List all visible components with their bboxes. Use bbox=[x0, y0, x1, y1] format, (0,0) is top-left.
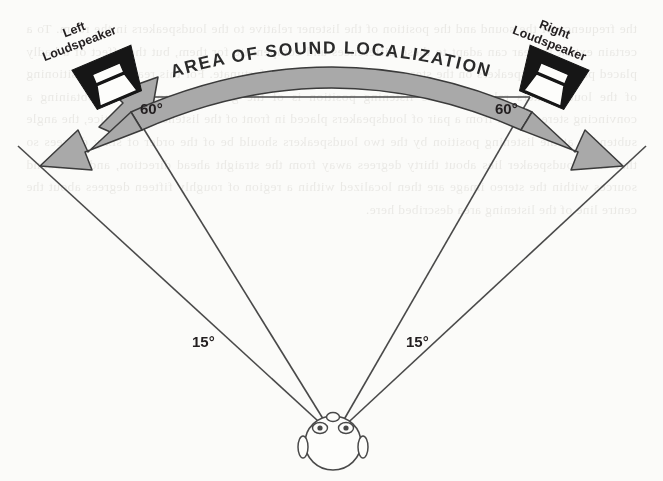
right-ear-icon bbox=[358, 436, 368, 458]
nose-icon bbox=[327, 413, 340, 422]
arc-band-body bbox=[131, 67, 532, 130]
angle-label-60-left: 60° bbox=[140, 100, 163, 117]
inner-ray-right bbox=[338, 97, 530, 430]
diagram-page: the frequency of the sound and the posit… bbox=[0, 0, 663, 481]
arc-arrowhead-right bbox=[521, 112, 623, 170]
inner-ray-left bbox=[124, 97, 330, 430]
arc-arrowhead-left bbox=[40, 112, 142, 170]
angle-label-15-right: 15° bbox=[406, 333, 429, 350]
head-outline bbox=[305, 416, 361, 470]
sound-localization-diagram: AREA OF SOUND LOCALIZATION bbox=[0, 0, 663, 481]
right-pupil-icon bbox=[343, 425, 348, 430]
angle-label-15-left: 15° bbox=[192, 333, 215, 350]
left-pupil-icon bbox=[317, 425, 322, 430]
angle-label-60-right: 60° bbox=[495, 100, 518, 117]
outer-ray-left bbox=[18, 146, 330, 432]
inner-ray-lines bbox=[124, 97, 530, 430]
left-ear-icon bbox=[298, 436, 308, 458]
listener-head bbox=[298, 413, 368, 471]
outer-ray-lines bbox=[18, 146, 646, 432]
outer-ray-right bbox=[338, 146, 646, 432]
